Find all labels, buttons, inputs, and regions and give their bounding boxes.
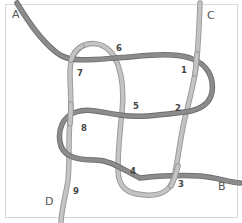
crossing-label-4: 4 — [130, 166, 136, 176]
end-label-b: B — [218, 180, 226, 193]
crossing-labels: 1 2 3 4 5 6 7 8 9 — [73, 43, 187, 196]
end-label-a: A — [12, 8, 20, 21]
crossing-label-8: 8 — [81, 123, 87, 133]
crossing-label-5: 5 — [133, 101, 139, 111]
crossing-label-2: 2 — [175, 103, 181, 113]
crossing-label-1: 1 — [181, 65, 187, 75]
crossing-label-7: 7 — [77, 68, 83, 78]
crossing-label-3: 3 — [178, 179, 184, 189]
end-label-d: D — [45, 195, 53, 208]
crossing-label-9: 9 — [73, 186, 79, 196]
end-label-c: C — [207, 9, 215, 22]
knot-diagram: A B C D 1 2 3 4 5 6 7 8 9 — [0, 0, 242, 223]
crossing-label-6: 6 — [116, 43, 122, 53]
rope-a-b — [17, 3, 240, 183]
